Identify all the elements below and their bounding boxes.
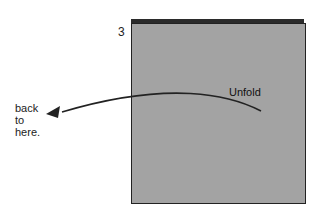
unfold-arrow-icon bbox=[0, 0, 325, 222]
